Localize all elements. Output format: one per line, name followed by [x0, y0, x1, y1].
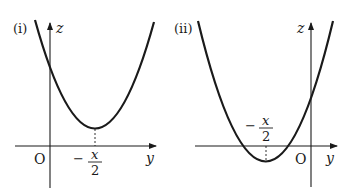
vertex-label: − x 2 — [73, 147, 102, 178]
minus-sign: − — [73, 151, 84, 166]
origin-label: O — [34, 151, 45, 167]
vertical-axis-label: z — [55, 20, 64, 36]
parabola-figure: (i) z O y − x 2 (ii) z O y − x 2 — [0, 0, 345, 195]
fraction-denominator: 2 — [262, 129, 270, 144]
vertical-axis-label: z — [296, 20, 305, 36]
fraction-numerator: x — [262, 113, 270, 128]
minus-sign: − — [245, 118, 256, 133]
fraction-denominator: 2 — [91, 163, 99, 178]
panel-label: (i) — [13, 21, 27, 36]
panel-ii: (ii) z O y − x 2 — [174, 20, 337, 187]
parabola-curve — [35, 20, 154, 129]
panel-i: (i) z O y − x 2 — [13, 20, 156, 188]
vertex-label: − x 2 — [245, 113, 273, 144]
horizontal-axis-label: y — [325, 150, 335, 166]
fraction-numerator: x — [91, 147, 99, 162]
origin-label: O — [295, 151, 306, 167]
panel-label: (ii) — [174, 21, 192, 36]
horizontal-axis-label: y — [145, 150, 155, 166]
